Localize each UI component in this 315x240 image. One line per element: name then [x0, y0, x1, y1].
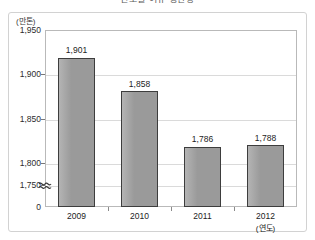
y-tick-label: 1,900 — [3, 69, 41, 79]
bar-2009[interactable] — [58, 58, 95, 208]
bar-2012[interactable] — [247, 145, 284, 207]
y-tick-mark — [41, 74, 45, 75]
bar-value-label-2010: 1,858 — [129, 79, 150, 89]
bar-value-label-2012: 1,788 — [255, 133, 276, 143]
chart-title-strip: 연도별 어류 생산량 — [0, 0, 315, 11]
x-tick-label-2009: 2009 — [67, 211, 86, 221]
bar-2011[interactable] — [184, 147, 221, 207]
y-tick-label: 1,800 — [3, 158, 41, 168]
page-title: 연도별 어류 생산량 — [0, 0, 315, 5]
y-tick-mark — [41, 119, 45, 120]
y-tick-label: 1,850 — [3, 114, 41, 124]
x-tick-label-2010: 2010 — [130, 211, 149, 221]
x-tick-mark — [108, 207, 109, 211]
x-tick-mark — [171, 207, 172, 211]
x-tick-mark — [234, 207, 235, 211]
bar-2010[interactable] — [121, 91, 158, 207]
bar-value-label-2009: 1,901 — [66, 45, 87, 55]
x-tick-label-2012: 2012 — [256, 211, 275, 221]
y-tick-mark — [41, 163, 45, 164]
y-tick-label: 0 — [3, 202, 41, 212]
bar-value-label-2011: 1,786 — [192, 134, 213, 144]
x-tick-label-2011: 2011 — [193, 211, 211, 221]
y-axis: 1,950 1,900 1,850 1,800 1,750 0 — [0, 0, 41, 240]
x-axis-unit-label: (연도) — [256, 222, 275, 233]
y-tick-label: 1,950 — [3, 25, 41, 35]
y-tick-label: 1,750 — [3, 180, 41, 190]
axis-break-icon — [38, 178, 52, 192]
